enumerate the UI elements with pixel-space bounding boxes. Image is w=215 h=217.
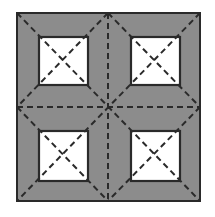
fold-pattern-diagram: [0, 0, 215, 217]
